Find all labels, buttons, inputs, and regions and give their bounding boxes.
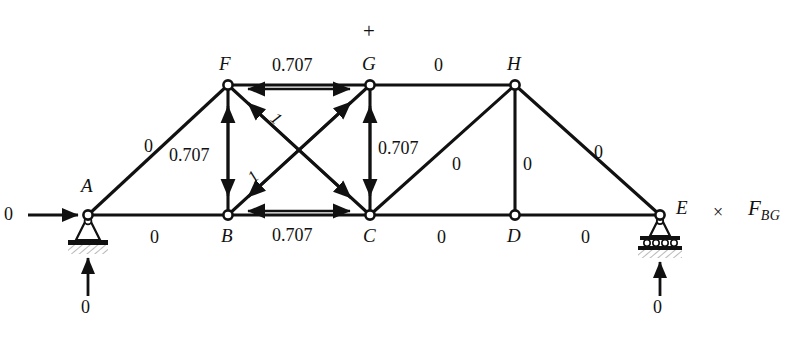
- node-label-E: E: [676, 198, 688, 217]
- arrow-BG-toG: [299, 102, 351, 150]
- joint-B: [223, 210, 232, 219]
- force-label-HD: 0: [523, 155, 532, 173]
- force-label-CH: 0: [452, 155, 461, 173]
- force-label-GC: 0.707: [378, 139, 419, 157]
- joint-E: [655, 210, 664, 219]
- support-pin-A: [68, 216, 108, 254]
- node-label-B: B: [221, 226, 233, 245]
- force-label-BC: 0.707: [272, 226, 313, 244]
- external-forces-group: [28, 215, 660, 296]
- reaction-label-A: 0: [81, 298, 90, 316]
- force-label-FG: 0.707: [272, 56, 313, 74]
- joint-A: [83, 210, 92, 219]
- force-label-GH: 0: [434, 56, 443, 74]
- truss-drawing-canvas: [0, 0, 801, 338]
- force-symbol-base: F: [748, 196, 761, 220]
- plus-sign: +: [363, 21, 375, 42]
- reaction-label-E: 0: [653, 298, 662, 316]
- node-label-A: A: [81, 176, 93, 195]
- force-label-AB: 0: [150, 228, 159, 246]
- truss-diagram-figure: + A B C D E F G H 0.707 0 0 0.707 0 0 0 …: [0, 0, 801, 338]
- force-label-DE: 0: [581, 228, 590, 246]
- load-label-horizontal-A: 0: [4, 205, 13, 223]
- node-label-D: D: [507, 226, 521, 245]
- node-label-G: G: [362, 54, 376, 73]
- joint-C: [365, 210, 374, 219]
- node-label-H: H: [507, 54, 521, 73]
- support-roller-E: [638, 216, 682, 258]
- joint-G: [365, 80, 374, 89]
- force-symbol-FBG: FBG: [748, 198, 780, 223]
- force-symbol-subscript: BG: [761, 208, 780, 223]
- joint-H: [510, 80, 519, 89]
- force-label-CD: 0: [437, 228, 446, 246]
- force-label-FB: 0.707: [169, 146, 210, 164]
- force-label-HE: 0: [594, 143, 603, 161]
- multiply-sign: ×: [713, 203, 723, 221]
- joint-F: [223, 80, 232, 89]
- node-label-C: C: [363, 226, 376, 245]
- arrow-FC-toC: [299, 150, 351, 198]
- joint-D: [510, 210, 519, 219]
- force-label-AF: 0: [144, 137, 153, 155]
- member-HE: [515, 85, 660, 215]
- node-label-F: F: [219, 54, 231, 73]
- force-arrows-group: [228, 89, 370, 211]
